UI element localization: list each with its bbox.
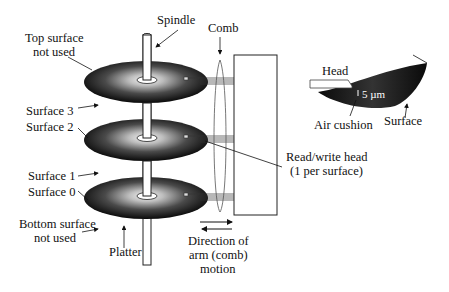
direction-label-3: motion [200,262,236,276]
surface-1-label: Surface 1 [28,169,76,183]
actuator-box [234,55,277,215]
platter-middle [84,103,208,161]
air-cushion-label: Air cushion [314,118,373,132]
platter-label: Platter [109,245,142,259]
surface-label: Surface [384,114,423,128]
platter-bottom [84,161,208,219]
rw-head-label-1: Read/write head [286,150,368,164]
top-surface-label-1: Top surface [25,31,84,45]
bottom-surface-label-1: Bottom surface [19,217,96,231]
gap-label: 5 µm [362,88,386,100]
direction-label-2: arm (comb) [189,248,248,262]
surface-3-label: Surface 3 [26,104,74,118]
top-surface-label-2: not used [33,45,76,59]
platter-top [84,35,208,103]
surface-2-label: Surface 2 [26,120,74,134]
surface-0-label: Surface 0 [28,185,76,199]
bottom-surface-label-2: not used [34,231,77,245]
spindle-label: Spindle [157,13,196,27]
rw-head-label-2: (1 per surface) [290,164,363,178]
disk-diagram: Spindle Comb Top surface not used Surfac… [0,0,449,292]
head-detail: Head 5 µm Air cushion Surface [310,55,427,132]
direction-label-1: Direction of [188,234,250,248]
comb-label: Comb [208,21,239,35]
head-label: Head [322,64,349,78]
